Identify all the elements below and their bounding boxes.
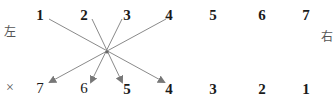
left-label: 左 (4, 26, 16, 38)
right-label: 右 (321, 31, 333, 43)
arrow-4-to-7 (50, 19, 166, 82)
bottom-number-4: 4 (165, 82, 173, 97)
bottom-number-2: 2 (258, 82, 266, 97)
intersection-point (105, 50, 108, 53)
top-number-3: 3 (123, 8, 131, 23)
top-number-6: 6 (258, 8, 266, 23)
bottom-number-5: 5 (123, 82, 131, 97)
top-number-1: 1 (36, 8, 44, 23)
bottom-number-7: 7 (36, 81, 44, 96)
top-number-2: 2 (80, 8, 88, 23)
bottom-number-6: 6 (80, 81, 88, 96)
top-number-7: 7 (302, 8, 310, 23)
cross-mark: × (6, 81, 14, 95)
top-number-5: 5 (209, 8, 217, 23)
bottom-number-1: 1 (302, 82, 310, 97)
bottom-number-3: 3 (209, 82, 217, 97)
top-number-4: 4 (165, 8, 173, 23)
